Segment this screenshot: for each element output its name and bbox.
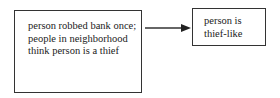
effect-box: person is thief-like — [192, 8, 266, 46]
effect-text: person is thief-like — [204, 15, 262, 40]
